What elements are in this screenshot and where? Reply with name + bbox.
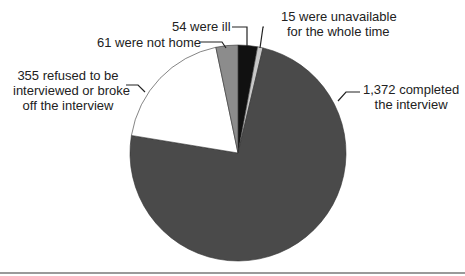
label-refused: 355 refused to be interviewed or broke o… bbox=[13, 68, 123, 113]
label-unavailable-line1: 15 were unavailable bbox=[281, 9, 397, 24]
pie-slices bbox=[130, 45, 346, 261]
bottom-rule bbox=[0, 272, 465, 274]
leader-unavailable bbox=[260, 27, 264, 48]
label-refused-line1: 355 refused to be bbox=[13, 68, 123, 83]
label-unavailable: 15 were unavailable for the whole time bbox=[281, 9, 397, 39]
label-completed: 1,372 completed the interview bbox=[363, 82, 459, 112]
label-unavailable-line2: for the whole time bbox=[281, 24, 397, 39]
leader-ill bbox=[232, 27, 247, 46]
leader-completed bbox=[338, 92, 360, 101]
pie-chart bbox=[0, 0, 465, 276]
label-completed-line1: 1,372 completed bbox=[363, 82, 459, 97]
label-refused-line2: interviewed or broke bbox=[13, 83, 123, 98]
label-ill: 54 were ill bbox=[172, 19, 231, 34]
label-refused-line3: off the interview bbox=[13, 98, 123, 113]
label-not-home: 61 were not home bbox=[97, 35, 201, 50]
label-completed-line2: the interview bbox=[363, 97, 459, 112]
